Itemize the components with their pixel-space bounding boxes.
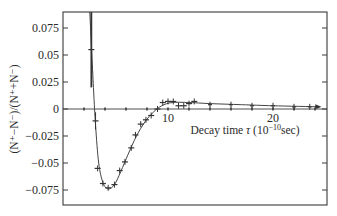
data-point bbox=[271, 103, 275, 109]
data-point bbox=[122, 159, 128, 165]
y-tick-label: −0.025 bbox=[25, 129, 59, 143]
data-point bbox=[208, 102, 212, 108]
data-points bbox=[88, 12, 311, 191]
data-point bbox=[128, 145, 134, 151]
y-tick-label: −0.05 bbox=[31, 156, 59, 170]
y-tick-label: 0 bbox=[53, 102, 59, 116]
data-point bbox=[176, 103, 182, 109]
y-tick-label: −0.075 bbox=[25, 183, 59, 197]
y-axis-title: (N⁺−N⁻)/(N⁺+N⁻) bbox=[8, 64, 21, 153]
data-point bbox=[229, 102, 233, 108]
data-point bbox=[93, 112, 99, 129]
data-point bbox=[181, 103, 187, 109]
data-point bbox=[170, 98, 176, 104]
data-point bbox=[88, 12, 94, 87]
data-point bbox=[250, 103, 254, 109]
plot-border bbox=[63, 12, 327, 205]
data-point bbox=[105, 185, 111, 191]
y-tick-label: 0.05 bbox=[38, 48, 59, 62]
x-tick-label: 10 bbox=[162, 111, 174, 125]
data-point bbox=[132, 132, 138, 138]
data-point bbox=[138, 121, 144, 127]
data-point bbox=[100, 181, 106, 187]
x-axis-title: Decay time τ (10−10sec) bbox=[191, 123, 300, 137]
asymmetry-chart: 0.0750.050.0250−0.025−0.05−0.075 1020 (N… bbox=[0, 0, 337, 216]
data-point bbox=[186, 101, 192, 107]
y-tick-label: 0.025 bbox=[32, 75, 59, 89]
plot-frame bbox=[63, 12, 327, 205]
data-point bbox=[148, 112, 154, 118]
y-tick-label: 0.075 bbox=[32, 21, 59, 35]
x-axis-zero-line: 1020 bbox=[63, 108, 327, 126]
data-point bbox=[191, 98, 197, 104]
